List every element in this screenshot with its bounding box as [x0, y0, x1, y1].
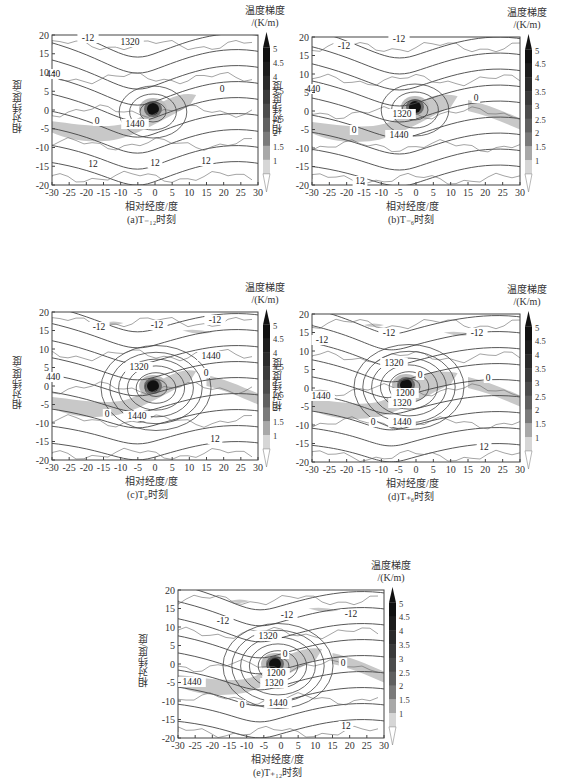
- x-tick-label: 15: [463, 187, 473, 198]
- x-tick-label: 10: [310, 740, 320, 751]
- x-tick-label: -20: [340, 187, 353, 198]
- colorbar-title-line1: 温度梯度: [371, 560, 411, 572]
- contour-label: 12: [201, 156, 211, 166]
- contour-label: 0: [474, 93, 479, 103]
- plot-area: [307, 307, 525, 462]
- y-axis-label: 相对纬度/度: [270, 81, 285, 134]
- x-tick-label: 0: [414, 187, 419, 198]
- contour-line: [307, 63, 525, 90]
- colorbar-title: 温度梯度/(K/m): [507, 7, 547, 31]
- y-tick-label: 0: [304, 383, 309, 394]
- y-tick-label: -20: [296, 457, 309, 468]
- contour-line: [307, 149, 525, 170]
- x-tick-label: 30: [253, 187, 263, 198]
- contour-label: 1320: [121, 37, 140, 47]
- chart-e: -12-12-121320001200132014400144012-30-25…: [140, 500, 426, 730]
- y-tick-label: -15: [36, 436, 49, 447]
- panel-c: -12-12-121440132044000144012-30-25-20-15…: [0, 250, 284, 470]
- x-tick-label: 20: [219, 187, 229, 198]
- y-tick-label: 10: [39, 67, 49, 78]
- x-tick-label: -15: [97, 187, 110, 198]
- y-tick-label: 0: [304, 106, 309, 117]
- contour-label: -12: [151, 320, 164, 330]
- colorbar: 54.543.532.521.51: [525, 311, 546, 469]
- contour-label: -12: [471, 328, 484, 338]
- y-axis-label: 相对纬度/度: [270, 358, 285, 411]
- x-tick-label: -5: [394, 187, 402, 198]
- y-tick-label: -5: [301, 124, 309, 135]
- contour-label: 0: [486, 373, 491, 383]
- colorbar-tick: 2.5: [535, 115, 546, 125]
- x-tick-label: 10: [184, 462, 194, 473]
- y-tick-label: 20: [39, 307, 49, 318]
- x-tick-label: -25: [62, 462, 75, 473]
- x-tick-label: 25: [498, 187, 508, 198]
- x-tick-label: -25: [188, 740, 201, 751]
- colorbar-tick: 3: [535, 378, 539, 388]
- colorbar-tick: 2: [535, 405, 539, 415]
- colorbar-tick: 2.5: [535, 392, 546, 402]
- colorbar-tick: 1: [535, 156, 539, 166]
- contour-line: [307, 428, 525, 446]
- colorbar-tick: 5: [273, 321, 277, 331]
- y-tick-label: 0: [44, 105, 49, 116]
- contour-label: 0: [105, 409, 110, 419]
- x-tick-label: 5: [431, 187, 436, 198]
- x-tick-label: 0: [279, 740, 284, 751]
- x-tick-label: -25: [62, 187, 75, 198]
- colorbar-tick: 4.5: [535, 59, 546, 69]
- contour-label: -12: [393, 34, 406, 44]
- y-tick-label: 10: [165, 622, 175, 633]
- colorbar-tick: 1: [273, 431, 277, 441]
- colorbar-title-line2: /(K/m): [245, 17, 285, 29]
- contour-label: 0: [371, 417, 376, 427]
- x-tick-label: 5: [170, 187, 175, 198]
- contour-label: -12: [93, 322, 106, 332]
- y-tick-label: -15: [296, 161, 309, 172]
- y-tick-label: -15: [36, 161, 49, 172]
- y-tick-label: -20: [296, 180, 309, 191]
- contour-label: 1440: [126, 119, 145, 129]
- y-axis-label: 相对纬度/度: [10, 356, 25, 409]
- contour-label: 1440: [390, 130, 409, 140]
- contour-label: 0: [418, 370, 423, 380]
- contour-label: 1440: [128, 411, 147, 421]
- contour-line: [307, 324, 525, 349]
- y-tick-label: 5: [304, 364, 309, 375]
- contour-label: 0: [240, 700, 245, 710]
- x-tick-label: -15: [223, 740, 236, 751]
- panel-e: -12-12-121320001200132014400144012-30-25…: [140, 500, 426, 730]
- colorbar-tick: 1: [273, 156, 277, 166]
- contour-label: 1320: [259, 631, 278, 641]
- contour-label: 1320: [130, 362, 149, 372]
- y-tick-label: 10: [299, 346, 309, 357]
- colorbar-tick: 1.5: [399, 695, 410, 705]
- y-tick-label: -5: [301, 401, 309, 412]
- x-tick-label: 30: [253, 462, 263, 473]
- colorbar-tick: 3: [535, 101, 539, 111]
- x-tick-label: 5: [170, 462, 175, 473]
- contour-label: 1200: [396, 388, 415, 398]
- contour-label: -12: [383, 328, 396, 338]
- y-tick-label: 0: [44, 381, 49, 392]
- colorbar-tick: 4: [535, 73, 540, 83]
- panel-caption: (b)T₋₆时刻: [388, 211, 434, 226]
- contour-label: 12: [150, 158, 160, 168]
- contour-label: 1320: [385, 358, 404, 368]
- y-tick-label: -10: [36, 142, 49, 153]
- colorbar-tick: 5: [399, 599, 403, 609]
- x-tick-label: 10: [446, 187, 456, 198]
- colorbar-tick: 2.5: [399, 668, 410, 678]
- x-tick-label: 5: [431, 464, 436, 475]
- colorbar-tick: 1: [535, 433, 539, 443]
- plot-area: [173, 583, 389, 738]
- contour-label: -12: [281, 610, 294, 620]
- x-tick-label: -20: [80, 187, 93, 198]
- colorbar-title-line2: /(K/m): [507, 296, 547, 308]
- colorbar-tick: 5: [273, 44, 277, 54]
- x-tick-label: 30: [515, 187, 525, 198]
- y-tick-label: 5: [170, 640, 175, 651]
- colorbar-tick: 2: [535, 128, 539, 138]
- x-tick-label: 0: [414, 464, 419, 475]
- chart-a: -121320440014400121212-30-25-20-15-10-50…: [0, 0, 284, 220]
